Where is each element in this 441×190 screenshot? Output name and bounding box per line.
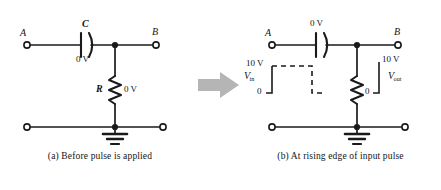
resistor-symbol-a [109, 76, 121, 104]
transition-arrow-wrap [198, 72, 240, 102]
terminal-a-top-left [24, 42, 30, 48]
ground-symbol-a [103, 127, 127, 144]
vin-low-label: 0 [257, 87, 262, 96]
junction-dot-top-b [354, 42, 360, 48]
terminal-a-top-left-b [269, 42, 275, 48]
vin-dashed-segment [272, 66, 322, 93]
terminal-b-top-right-b [395, 42, 401, 48]
vout-low-label: 0 [365, 87, 370, 96]
capacitor-voltage-label-a: 0 V [76, 55, 89, 64]
vin-high-label: 10 V [246, 59, 264, 68]
terminal-label-b-right: B [152, 27, 158, 37]
ground-symbol-b [345, 127, 369, 144]
vin-rising-edge-solid [266, 66, 272, 93]
terminal-b-top-right [153, 42, 159, 48]
terminal-label-a-left: A [20, 28, 26, 38]
junction-dot-top-a [112, 42, 118, 48]
panel-rising-edge: A B 0 V 10 V 0 Vin 10 V 0 Vout (b) At ri… [240, 0, 441, 190]
terminal-bottom-left-b [269, 124, 275, 130]
terminal-bottom-left-a [24, 124, 30, 130]
vout-subscript: out [394, 75, 402, 82]
circuit-schematic-a [0, 0, 200, 150]
vout-signal-label: Vout [388, 71, 402, 81]
panel-before-pulse: A B C 0 V R 0 V (a) Before pulse is appl… [0, 0, 200, 190]
caption-panel-a: (a) Before pulse is applied [0, 151, 200, 161]
resistor-symbol-b [351, 76, 363, 104]
vin-subscript: in [250, 75, 255, 82]
resistor-label-r: R [96, 84, 103, 94]
vin-signal-label: Vin [244, 71, 255, 81]
resistor-voltage-label-a: 0 V [124, 85, 137, 94]
terminal-bottom-right-b [402, 124, 408, 130]
right-arrow-icon [198, 72, 240, 98]
capacitor-voltage-label-b: 0 V [310, 19, 323, 28]
circuit-figure: A B C 0 V R 0 V (a) Before pulse is appl… [0, 0, 441, 190]
vout-rising-edge-solid [373, 62, 379, 93]
caption-panel-b: (b) At rising edge of input pulse [240, 151, 441, 161]
circuit-schematic-b [240, 0, 441, 150]
terminal-bottom-right-a [160, 124, 166, 130]
vout-high-label: 10 V [382, 55, 400, 64]
waveform-vin [266, 66, 322, 93]
terminal-label-b-right-b: B [394, 27, 400, 37]
capacitor-label-c: C [82, 19, 89, 29]
terminal-label-a-left-b: A [265, 28, 271, 38]
waveform-vout [373, 62, 379, 93]
